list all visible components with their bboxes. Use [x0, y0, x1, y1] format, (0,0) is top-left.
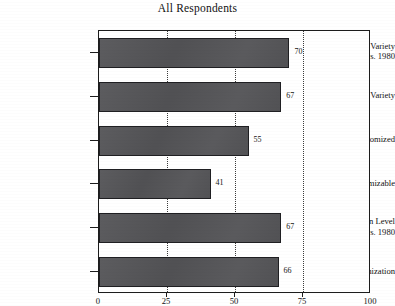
bar — [99, 126, 249, 156]
bar-value-label: 67 — [286, 92, 294, 100]
bar-value-label: 55 — [254, 136, 262, 144]
bar-value-label: 70 — [294, 48, 302, 56]
x-axis-label: 75 — [298, 296, 307, 306]
bar-row — [99, 169, 369, 199]
plot-area — [98, 30, 370, 293]
x-axis-label: 100 — [364, 296, 377, 306]
x-axis-label: 50 — [230, 296, 239, 306]
gridline-50 — [235, 31, 236, 292]
bar — [99, 257, 279, 287]
bar-chart: All Respondents Amount of Variety1991 vs… — [0, 0, 395, 306]
gridline-75 — [303, 31, 304, 292]
bar-row — [99, 126, 369, 156]
bar-value-label: 66 — [284, 267, 292, 275]
bar — [99, 38, 289, 68]
bar-row — [99, 213, 369, 243]
bar-row — [99, 82, 369, 112]
gridline-25 — [167, 31, 168, 292]
chart-title: All Respondents — [0, 2, 395, 14]
x-axis-label: 25 — [162, 296, 171, 306]
bar — [99, 213, 281, 243]
bar-row — [99, 257, 369, 287]
bar — [99, 82, 281, 112]
plot-inner — [99, 31, 369, 292]
bar-value-label: 41 — [216, 179, 224, 187]
bar-row — [99, 38, 369, 68]
x-axis-label: 0 — [96, 296, 100, 306]
bar — [99, 169, 211, 199]
bar-value-label: 67 — [286, 223, 294, 231]
